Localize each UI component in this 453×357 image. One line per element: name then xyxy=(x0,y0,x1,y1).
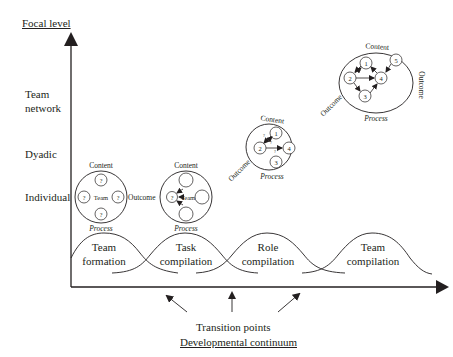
transition-arrows xyxy=(167,293,299,312)
svg-text:?: ? xyxy=(117,195,120,201)
level-team-network-line1: Team xyxy=(25,87,61,101)
svg-text:Process: Process xyxy=(259,172,284,181)
phase-team-compilation-line2: compilation xyxy=(345,254,401,268)
y-axis-arrow-icon xyxy=(64,32,78,46)
phase-role-compilation-line1: Role xyxy=(240,240,296,254)
stage2-diagram: ? Team Content Process xyxy=(160,161,212,233)
svg-text:?: ? xyxy=(263,133,265,138)
phase-task-compilation-line1: Task xyxy=(158,240,214,254)
phase-team-compilation: Team compilation xyxy=(345,240,401,268)
svg-text:1: 1 xyxy=(364,60,367,67)
svg-text:Content: Content xyxy=(260,113,286,125)
phase-task-compilation: Task compilation xyxy=(158,240,214,268)
phase-team-formation-line1: Team xyxy=(80,240,128,254)
svg-text:Outcome: Outcome xyxy=(417,71,426,99)
svg-text:?: ? xyxy=(171,195,174,201)
phase-team-formation-line2: formation xyxy=(80,254,128,268)
svg-text:5: 5 xyxy=(394,57,397,64)
x-axis-title: Developmental continuum xyxy=(180,336,297,348)
svg-text:?: ? xyxy=(100,212,103,218)
team-development-diagram: ? ? ? ? Team Content Process Outcome ? T… xyxy=(0,0,453,357)
svg-text:?: ? xyxy=(83,195,86,201)
phase-team-formation: Team formation xyxy=(80,240,128,268)
phase-role-compilation-line2: compilation xyxy=(240,254,296,268)
svg-text:Content: Content xyxy=(174,161,199,170)
level-team-network-line2: network xyxy=(25,101,61,115)
svg-text:Content: Content xyxy=(89,161,114,170)
transition-points-label: Transition points xyxy=(196,320,270,334)
svg-text:Process: Process xyxy=(88,224,113,233)
svg-text:?: ? xyxy=(270,140,272,145)
svg-text:3: 3 xyxy=(274,159,277,166)
phase-team-compilation-line1: Team xyxy=(345,240,401,254)
transition-arrow-3-icon xyxy=(278,294,299,312)
svg-text:?: ? xyxy=(100,178,103,184)
stage4-diagram: 1 2 3 4 5 Content Process Outcome Outcom… xyxy=(318,41,426,123)
y-axis-title: Focal level xyxy=(22,17,71,29)
transition-arrow-1-icon xyxy=(167,296,187,312)
phase-role-compilation: Role compilation xyxy=(240,240,296,268)
svg-text:?: ? xyxy=(274,149,276,154)
svg-text:Outcome: Outcome xyxy=(318,92,344,118)
svg-text:3: 3 xyxy=(363,93,366,100)
svg-text:2: 2 xyxy=(348,75,351,82)
x-axis-arrow-icon xyxy=(436,280,449,294)
svg-text:Process: Process xyxy=(173,224,198,233)
svg-text:Outcome: Outcome xyxy=(128,193,156,202)
stage1-diagram: ? ? ? ? Team Content Process Outcome xyxy=(75,161,156,233)
phase-task-compilation-line2: compilation xyxy=(158,254,214,268)
svg-text:2: 2 xyxy=(258,145,261,152)
x-axis xyxy=(71,280,449,294)
svg-text:1: 1 xyxy=(274,130,277,137)
level-team-network: Team network xyxy=(25,87,61,115)
level-individual: Individual xyxy=(25,190,70,204)
level-dyadic: Dyadic xyxy=(25,147,57,161)
svg-text:Outcome: Outcome xyxy=(226,157,252,183)
svg-text:Process: Process xyxy=(363,114,388,123)
svg-text:Content: Content xyxy=(365,41,390,52)
stage3-diagram: 1 2 3 4 ? ? ? Content Process Outcome xyxy=(226,113,295,183)
svg-text:Team: Team xyxy=(94,194,108,201)
